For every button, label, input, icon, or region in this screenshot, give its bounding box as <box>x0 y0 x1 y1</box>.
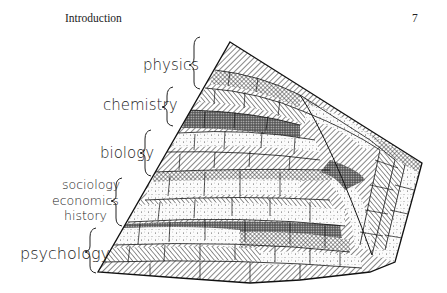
label-psychology: psychology <box>20 244 110 263</box>
label-sociology: sociology <box>62 177 120 192</box>
label-physics: physics <box>143 56 199 74</box>
label-history: history <box>64 208 107 223</box>
label-chemistry: chemistry <box>103 96 178 114</box>
label-biology: biology <box>100 144 154 162</box>
label-economics: economics <box>52 193 119 208</box>
pyramid-of-sciences-figure: physics chemistry biology sociology econ… <box>0 0 447 293</box>
pyramid-bricks <box>90 38 430 290</box>
